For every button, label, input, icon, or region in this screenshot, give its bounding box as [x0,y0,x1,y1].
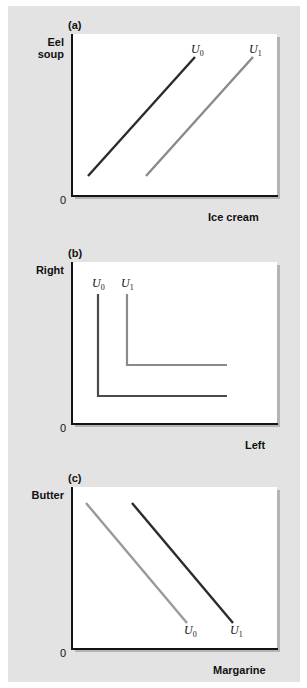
panel-b-label-u1: U1 [121,276,134,292]
panel-b-label-u1-text: U [121,276,130,290]
panel-c-tag: (c) [68,472,81,484]
panel-c-label-u0-sub: 0 [193,630,197,639]
panel-c-label-u1-sub: 1 [239,630,243,639]
panel-b-label-u0-text: U [92,276,101,290]
panel-a-x-axis-label: Ice cream [208,211,259,223]
panel-b-tag: (b) [68,247,82,259]
panel-a-tag: (a) [68,19,81,31]
panel-c: (c) Butter 0 U0 U1 Margarine [8,461,300,682]
panel-a-curves [72,34,277,196]
panel-a-label-u1-sub: 1 [258,49,262,58]
panel-a: (a) Eel soup 0 U0 U1 Ice cream [8,6,300,231]
panel-b-y-axis [71,262,73,424]
panel-b-label-u1-sub: 1 [130,283,134,292]
panel-c-y-axis [71,487,73,649]
panel-a-label-u1: U1 [249,42,262,58]
panel-a-origin-label: 0 [60,194,66,206]
panel-b-label-u0-sub: 0 [101,283,105,292]
panel-c-y-axis-label-line1: Butter [32,489,64,501]
panel-b-plot-area: U0 U1 [72,262,277,424]
panel-a-y-axis-label-line1: Eel [47,36,64,48]
figure-container: (a) Eel soup 0 U0 U1 Ice cream (b) [8,6,300,682]
panel-c-origin-label: 0 [60,647,66,659]
panel-c-plot-area: U0 U1 [72,487,277,649]
panel-b-y-axis-label: Right [16,264,64,276]
panel-a-label-u1-text: U [249,42,258,56]
panel-a-y-axis [71,34,73,196]
panel-a-label-u0-sub: 0 [200,49,204,58]
panel-b-label-u0: U0 [92,276,105,292]
panel-a-label-u0: U0 [191,42,204,58]
panel-a-y-axis-label-line2: soup [38,48,64,60]
panel-c-curve-u1 [132,503,233,623]
panel-c-y-axis-label: Butter [12,489,64,501]
panel-c-x-axis-label: Margarine [213,664,266,676]
panel-b-x-axis-label: Left [245,439,265,451]
panel-b-y-axis-label-line1: Right [36,264,64,276]
panel-b-curve-u0 [98,294,227,396]
panel-c-label-u1-text: U [230,623,239,637]
panel-c-curve-u0 [86,503,187,623]
panel-b-origin-label: 0 [60,422,66,434]
panel-a-y-axis-label: Eel soup [16,36,64,60]
panel-a-label-u0-text: U [191,42,200,56]
panel-a-plot-area: U0 U1 [72,34,277,196]
panel-c-label-u1: U1 [230,623,243,639]
panel-b-curve-u1 [127,294,227,365]
panel-b-x-axis [71,423,278,425]
panel-a-curve-u1 [146,57,253,176]
panel-c-label-u0: U0 [184,623,197,639]
panel-c-x-axis [71,648,278,650]
panel-a-x-axis [71,195,278,197]
panel-a-curve-u0 [88,57,195,176]
panel-c-curves [72,487,277,649]
panel-b: (b) Right 0 U0 U1 Left [8,234,300,459]
panel-c-label-u0-text: U [184,623,193,637]
